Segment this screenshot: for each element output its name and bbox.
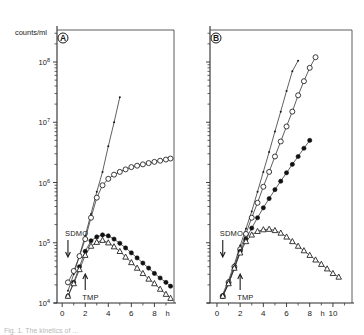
data-point-filled-circle (296, 154, 300, 158)
data-point-filled-circle (308, 138, 312, 142)
data-point-open-triangle (284, 234, 290, 239)
data-point-open-circle (307, 65, 312, 70)
y-axis-tick-label: 104 (39, 298, 50, 308)
x-axis-panel-a: 02468h (54, 303, 176, 318)
data-point-open-circle (123, 167, 128, 172)
data-point-dot (239, 245, 241, 247)
y-axis (206, 26, 210, 303)
panel-label-text: B (213, 33, 219, 43)
data-point-open-circle (168, 156, 173, 161)
x-axis-unit-label: h (320, 309, 324, 318)
figure-caption: Fig. 1. The kinetics of ... (4, 326, 360, 335)
data-point-filled-circle (164, 280, 168, 284)
y-axis-tick-label: 106 (39, 178, 50, 188)
data-point-dot (297, 60, 299, 62)
annotation-label: SDMO (220, 229, 243, 238)
data-point-open-circle (261, 184, 266, 189)
data-point-open-triangle (152, 281, 158, 286)
data-point-dot (245, 228, 247, 230)
data-point-open-circle (135, 163, 140, 168)
x-axis-tick-label: 4 (106, 309, 111, 318)
data-point-open-circle (146, 161, 151, 166)
annotation-tmp-panel-b: TMP (237, 274, 253, 302)
data-point-dot (102, 171, 104, 173)
data-point-filled-circle (123, 246, 127, 250)
data-point-filled-circle (135, 256, 139, 260)
data-point-open-circle (140, 162, 145, 167)
series-line (223, 57, 316, 296)
data-point-open-triangle (290, 238, 296, 243)
data-point-filled-circle (141, 261, 145, 265)
data-point-open-circle (158, 158, 163, 163)
data-point-filled-circle (106, 234, 110, 238)
data-point-open-circle (296, 93, 301, 98)
data-point-open-triangle (324, 266, 330, 271)
x-axis-unit-label: h (166, 309, 170, 318)
data-point-filled-circle (250, 226, 254, 230)
data-point-dot (96, 191, 98, 193)
data-point-dot (280, 111, 282, 113)
data-point-open-circle (77, 254, 82, 259)
data-point-open-triangle (82, 252, 88, 257)
annotation-tmp-panel-a: TMP (82, 274, 98, 302)
data-point-open-circle (272, 154, 277, 159)
x-axis-tick-label: 0 (215, 309, 220, 318)
data-point-filled-circle (279, 179, 283, 183)
data-point-dot (268, 151, 270, 153)
data-point-open-circle (117, 169, 122, 174)
x-axis-panel-b: 0246810h (207, 303, 354, 318)
series-dot-panel-b (222, 60, 299, 295)
y-axis-tick-label: 105 (39, 238, 50, 248)
data-point-open-circle (267, 169, 272, 174)
panel-frames (57, 30, 352, 303)
data-point-filled-circle (284, 171, 288, 175)
data-point-open-circle (89, 215, 94, 220)
x-axis-tick-label: 2 (83, 309, 88, 318)
x-axis-tick-label: 0 (60, 309, 65, 318)
data-point-open-triangle (100, 237, 106, 242)
x-axis-tick-label: 2 (238, 309, 243, 318)
x-axis-tick-label: 6 (284, 309, 289, 318)
data-point-open-triangle (319, 261, 325, 266)
data-point-filled-circle (290, 162, 294, 166)
series-line (68, 159, 171, 283)
data-point-filled-circle (118, 241, 122, 245)
data-point-dot (119, 96, 121, 98)
data-point-open-circle (278, 139, 283, 144)
data-point-filled-circle (267, 197, 271, 201)
x-axis-tick-label: 8 (152, 309, 157, 318)
data-point-open-triangle (111, 244, 117, 249)
panel-label-a: A (58, 33, 68, 43)
data-point-open-circle (284, 124, 289, 129)
y-axis-title: counts/ml (15, 28, 47, 37)
data-point-dot (107, 145, 109, 147)
y-axis-tick-label: 108 (39, 57, 50, 67)
data-point-open-circle (301, 79, 306, 84)
data-point-dot (257, 191, 259, 193)
data-point-filled-circle (152, 271, 156, 275)
x-axis-tick-label: 4 (261, 309, 266, 318)
data-point-filled-circle (261, 206, 265, 210)
series-filled-circle-panel-a (66, 233, 173, 298)
data-point-open-triangle (163, 291, 169, 296)
data-point-open-triangle (330, 270, 336, 275)
x-axis-tick-label: 8 (308, 309, 313, 318)
data-point-filled-circle (129, 251, 133, 255)
data-point-filled-circle (112, 237, 116, 241)
data-point-open-circle (129, 165, 134, 170)
panel-a-frame (57, 30, 174, 303)
data-point-dot (286, 90, 288, 92)
data-point-open-circle (290, 109, 295, 114)
y-axis: 104105106107108 (39, 26, 57, 308)
data-point-open-triangle (307, 252, 313, 257)
series-line (223, 140, 310, 296)
series-line (223, 61, 298, 295)
series-open-circle-panel-a (65, 156, 173, 285)
series-line (68, 97, 120, 291)
data-point-filled-circle (168, 284, 172, 288)
annotation-label: TMP (82, 293, 98, 302)
data-point-open-circle (313, 55, 318, 60)
data-point-open-triangle (301, 248, 307, 253)
data-point-open-circle (249, 215, 254, 220)
data-point-filled-circle (158, 276, 162, 280)
